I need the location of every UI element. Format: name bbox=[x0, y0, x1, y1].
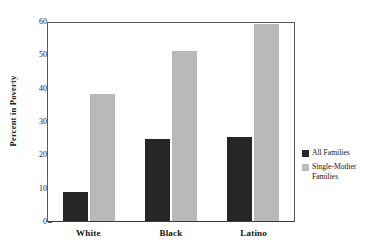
legend-label-all-families: All Families bbox=[312, 148, 350, 157]
legend-swatch-all-families bbox=[302, 150, 309, 157]
bar-group-latino bbox=[227, 23, 279, 221]
y-tick-label-0: 0 bbox=[22, 217, 47, 227]
bar-group-container bbox=[48, 23, 294, 221]
y-tick-mark-0 bbox=[48, 222, 52, 223]
x-tick-label-latino: Latino bbox=[226, 228, 282, 238]
x-tick-label-white: White bbox=[60, 228, 116, 238]
y-tick-label-30: 30 bbox=[22, 117, 47, 127]
y-tick-label-40: 40 bbox=[22, 84, 47, 94]
y-tick-label-60: 60 bbox=[22, 17, 47, 27]
bar-black-single-mother bbox=[172, 51, 197, 221]
y-axis-title-text: Percent in Poverty bbox=[8, 76, 18, 147]
y-axis-title: Percent in Poverty bbox=[2, 0, 24, 222]
bar-group-black bbox=[145, 23, 197, 221]
legend-item-all-families: All Families bbox=[302, 148, 382, 157]
legend-item-single-mother: Single-Mother Families bbox=[302, 162, 382, 181]
plot-area bbox=[47, 22, 295, 222]
y-tick-label-50: 50 bbox=[22, 50, 47, 60]
bar-white-all-families bbox=[63, 192, 88, 221]
y-tick-label-20: 20 bbox=[22, 150, 47, 160]
y-tick-label-10: 10 bbox=[22, 184, 47, 194]
bar-chart-figure: Percent in Poverty 60 50 40 30 20 10 0 bbox=[0, 0, 385, 252]
bar-white-single-mother bbox=[90, 94, 115, 221]
bar-latino-all-families bbox=[227, 137, 252, 221]
x-tick-label-black: Black bbox=[143, 228, 199, 238]
bar-black-all-families bbox=[145, 139, 170, 221]
x-axis-labels: White Black Latino bbox=[47, 228, 295, 238]
legend-label-single-mother: Single-Mother Families bbox=[312, 162, 356, 181]
legend-swatch-single-mother bbox=[302, 164, 309, 171]
bar-latino-single-mother bbox=[254, 24, 279, 221]
bar-group-white bbox=[63, 23, 115, 221]
chart-legend: All Families Single-Mother Families bbox=[302, 148, 382, 186]
